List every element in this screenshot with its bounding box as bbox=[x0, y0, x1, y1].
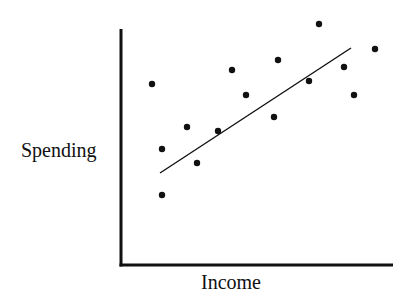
data-point bbox=[159, 192, 165, 198]
data-point bbox=[194, 160, 200, 166]
data-point bbox=[229, 67, 235, 73]
regression-line bbox=[160, 48, 351, 173]
data-point bbox=[243, 92, 249, 98]
scatter-plot bbox=[0, 0, 410, 305]
data-point bbox=[316, 21, 322, 27]
data-point bbox=[275, 57, 281, 63]
data-point bbox=[184, 124, 190, 130]
data-points bbox=[149, 21, 378, 198]
data-point bbox=[341, 64, 347, 70]
data-point bbox=[271, 114, 277, 120]
data-point bbox=[149, 81, 155, 87]
data-point bbox=[306, 78, 312, 84]
trendline bbox=[160, 48, 351, 173]
data-point bbox=[159, 146, 165, 152]
data-point bbox=[372, 46, 378, 52]
data-point bbox=[215, 128, 221, 134]
data-point bbox=[351, 92, 357, 98]
